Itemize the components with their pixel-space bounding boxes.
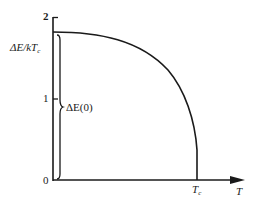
y-axis-label: ΔE/kTc	[10, 42, 40, 55]
x-tick-label-tc: Tc	[192, 184, 201, 197]
gap-diagram	[0, 0, 257, 206]
brace-icon	[57, 35, 63, 179]
brace-label: ΔE(0)	[66, 102, 93, 113]
y-tick-label-2: 2	[43, 11, 49, 22]
x-axis-label: T	[236, 186, 242, 197]
y-tick-label-0: 0	[43, 175, 49, 186]
y-tick-label-1: 1	[43, 93, 49, 104]
x-axis-arrow-icon	[230, 176, 245, 184]
